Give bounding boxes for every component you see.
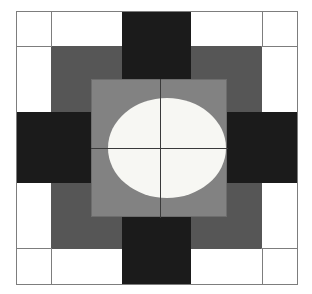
test-pattern-canvas — [0, 0, 312, 294]
corner-rule-vertical-left-bottom — [51, 248, 52, 284]
corner-rule-horizontal-top-left — [17, 46, 52, 47]
corner-rule-vertical-right-top — [262, 12, 263, 47]
crosshair-horizontal-line — [91, 148, 228, 149]
corner-rule-horizontal-bottom-right — [261, 248, 297, 249]
corner-rule-horizontal-top-right — [261, 46, 297, 47]
corner-rule-vertical-right-bottom — [262, 248, 263, 284]
corner-rule-horizontal-bottom-left — [17, 248, 52, 249]
corner-rule-vertical-left-top — [51, 12, 52, 47]
